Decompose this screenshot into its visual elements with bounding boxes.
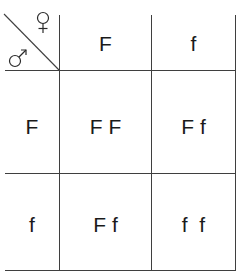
female-symbol-icon xyxy=(38,13,49,34)
row-header-1: F xyxy=(5,116,59,137)
genotype-cell-r1c2: F f xyxy=(152,116,235,137)
column-header-2: f xyxy=(152,33,235,54)
row-header-2: f xyxy=(5,214,59,235)
genotype-cell-r1c1: F F xyxy=(60,116,151,137)
punnett-square: F f F f F F F f F f f f xyxy=(0,0,241,279)
genotype-cell-r2c2: f f xyxy=(152,214,235,235)
column-header-1: F xyxy=(60,33,151,54)
male-symbol-icon xyxy=(10,50,27,67)
corner-diagonal-line xyxy=(4,14,59,70)
genotype-cell-r2c1: F f xyxy=(60,214,151,235)
